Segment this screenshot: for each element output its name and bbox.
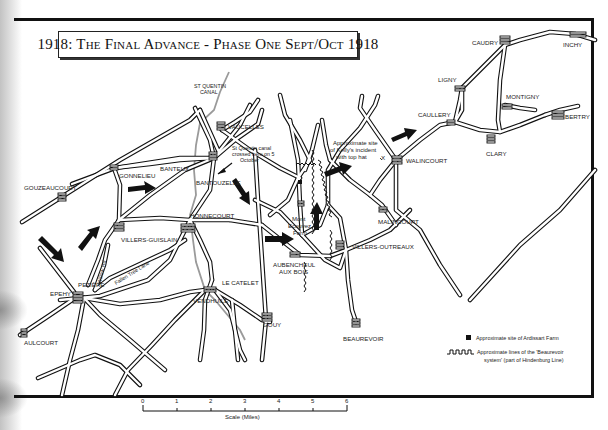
note-mont-ecouvez-3: Farm: [293, 230, 307, 236]
label-banteux: BANTEUX: [160, 165, 189, 172]
town-walincourt: [392, 156, 402, 164]
map-title: 1918: The Final Advance - Phase One Sept…: [37, 36, 378, 53]
label-malincourt: MALINCOURT: [378, 218, 419, 225]
label-walincourt: WALINCOURT: [406, 157, 447, 164]
town-villers-outreaux: [336, 241, 344, 249]
label-clary: CLARY: [486, 150, 507, 157]
kelly-x-marker: X: [381, 154, 385, 161]
ardissart-farm-marker: [298, 180, 302, 184]
note-mont-ecouvez-2: Ecouvez: [288, 223, 311, 229]
scale-label: Scale (Miles): [225, 414, 260, 420]
scale-tick-1: 1: [175, 398, 179, 404]
town-gouzeaucourt: [58, 193, 66, 201]
label-bertry: BERTRY: [565, 113, 590, 120]
scale-tick-5: 5: [311, 398, 315, 404]
town-vaucelles: [217, 122, 225, 130]
arrow-icon: [78, 226, 100, 251]
label-ligny: LIGNY: [438, 76, 457, 83]
town-caudry: [500, 36, 510, 44]
scale-tick-2: 2: [209, 398, 213, 404]
label-honnecourt: HONNECOURT: [190, 212, 234, 219]
scale-bar: 0 1 2 3 4 5 6 Scale (Miles): [141, 398, 349, 420]
note-kelly-2: of Kelly's incident: [330, 147, 377, 153]
town-banteux: [209, 152, 217, 160]
label-gouy: GOUY: [263, 321, 281, 328]
town-beaurevoir: [352, 319, 360, 327]
town-honnecourt: [181, 224, 195, 232]
label-caullery: CAULLERY: [418, 111, 451, 118]
note-kelly-3: with top hat: [335, 154, 367, 160]
label-le-catelet: LE CATELET: [222, 279, 259, 286]
label-aulcourt: AULCOURT: [24, 339, 58, 346]
label-st-quentin-canal-2: CANAL: [200, 89, 218, 95]
legend-trench-icon: [447, 350, 474, 354]
label-gouzeaucourt: GOUZEAUCOURT: [24, 184, 77, 191]
scale-tick-4: 4: [277, 398, 281, 404]
label-gonnelieu: GONNELIEU: [119, 172, 155, 179]
town-bertry: [552, 111, 564, 119]
label-villers-outreaux: VILLERS-OUTREAUX: [352, 243, 414, 250]
label-aux-bois: AUX BOIS: [279, 268, 308, 275]
legend-trench-text-2: system' (part of Hindenburg Line): [484, 357, 564, 363]
map-canvas: ST QUENTIN CANAL VAUCELLES CAUDRY INCHY …: [0, 0, 608, 430]
label-montigny: MONTIGNY: [506, 93, 539, 100]
legend: Approximate site of Ardissart Farm Appro…: [447, 335, 564, 363]
label-villers-guislain: VILLERS-GUISLAIN: [121, 236, 177, 243]
legend-farm-text: Approximate site of Ardissart Farm: [476, 335, 559, 341]
legend-farm-icon: [466, 335, 471, 340]
label-inchy: INCHY: [563, 41, 582, 48]
label-epehy: EPEHY: [50, 290, 71, 297]
town-clary: [487, 135, 495, 143]
map-title-box: 1918: The Final Advance - Phase One Sept…: [58, 31, 358, 58]
town-villers-guislain: [114, 223, 124, 231]
note-mont-ecouvez-1: Mont: [292, 216, 306, 222]
label-vendhuile: VENDHUILE: [193, 297, 228, 304]
note-canal-crossing-3: October: [240, 157, 259, 163]
label-bantouzelle: BANTOUZELLE: [196, 179, 241, 186]
label-vaucelles: VAUCELLES: [228, 123, 264, 130]
town-aulcourt: [21, 329, 27, 337]
label-beaurevoir: BEAUREVOIR: [343, 335, 384, 342]
arrow-icon: [391, 128, 417, 142]
note-kelly-1: Approximate site: [333, 140, 378, 146]
scale-tick-3: 3: [243, 398, 247, 404]
label-aubencheul: AUBENCHEUL: [273, 261, 316, 268]
label-caudry: CAUDRY: [472, 39, 498, 46]
scale-tick-0: 0: [141, 398, 145, 404]
scale-tick-6: 6: [345, 398, 349, 404]
town-gouy: [262, 313, 272, 321]
legend-trench-text-1: Approximate lines of the 'Beaurevoir: [477, 349, 564, 355]
